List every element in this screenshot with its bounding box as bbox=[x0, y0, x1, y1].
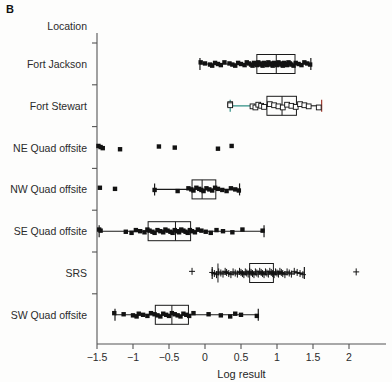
data-point bbox=[209, 231, 213, 235]
data-point bbox=[316, 105, 321, 110]
x-tick-label-7: 2 bbox=[346, 351, 352, 363]
data-point bbox=[124, 230, 128, 234]
x-tick-label-3: 0 bbox=[202, 351, 208, 363]
boxplot-group-fort-stewart bbox=[228, 96, 322, 115]
boxplot-group-fort-jackson bbox=[198, 55, 312, 74]
figure-panel: B LocationFort JacksonFort StewartNE Qua… bbox=[0, 0, 392, 382]
data-point bbox=[198, 60, 202, 64]
data-point bbox=[175, 189, 179, 193]
boxplot-group-se-quad-offsite bbox=[97, 222, 265, 241]
data-point bbox=[230, 230, 234, 234]
data-point bbox=[118, 147, 122, 151]
y-tick-label-sw-quad-offsite: SW Quad offsite bbox=[11, 309, 87, 321]
data-point bbox=[229, 144, 233, 148]
data-point bbox=[216, 187, 220, 191]
data-point bbox=[216, 147, 220, 151]
x-tick-label-0: −1.5 bbox=[87, 351, 108, 363]
data-point bbox=[98, 228, 102, 232]
boxplot-group-ne-quad-offsite bbox=[96, 144, 234, 152]
data-point bbox=[214, 228, 218, 232]
data-point bbox=[229, 186, 233, 190]
data-point bbox=[239, 313, 243, 317]
x-tick-label-2: −0.5 bbox=[159, 351, 180, 363]
data-point bbox=[112, 311, 116, 315]
data-point bbox=[228, 103, 233, 108]
data-point bbox=[141, 313, 145, 317]
data-point bbox=[255, 314, 259, 318]
data-point bbox=[191, 311, 195, 315]
x-tick-label-4: 0.5 bbox=[234, 351, 249, 363]
boxplot-group-sw-quad-offsite bbox=[112, 305, 259, 324]
data-point bbox=[306, 104, 311, 109]
data-point bbox=[224, 189, 228, 193]
data-point bbox=[308, 62, 312, 66]
x-tick-label-1: −1 bbox=[127, 351, 139, 363]
data-point bbox=[173, 145, 177, 149]
y-tick-label-srs: SRS bbox=[65, 267, 87, 279]
data-point bbox=[237, 188, 241, 192]
x-tick-label-6: 1.5 bbox=[306, 351, 321, 363]
data-point bbox=[206, 312, 210, 316]
data-point bbox=[203, 61, 207, 65]
data-point bbox=[260, 228, 264, 232]
data-point bbox=[219, 313, 223, 317]
y-tick-label-ne-quad-offsite: NE Quad offsite bbox=[13, 142, 87, 154]
data-point bbox=[101, 146, 105, 150]
y-tick-label-fort-jackson: Fort Jackson bbox=[27, 58, 87, 70]
y-tick-label-se-quad-offsite: SE Quad offsite bbox=[14, 225, 88, 237]
data-point bbox=[220, 188, 224, 192]
data-point bbox=[137, 312, 141, 316]
data-point bbox=[199, 228, 203, 232]
data-point bbox=[221, 229, 225, 233]
boxplot-group-srs bbox=[189, 264, 359, 283]
data-point bbox=[98, 186, 102, 190]
y-axis-header: Location bbox=[47, 20, 87, 32]
data-point bbox=[129, 231, 133, 235]
data-point bbox=[204, 230, 208, 234]
data-point bbox=[138, 229, 142, 233]
data-point bbox=[233, 312, 237, 316]
data-point bbox=[134, 228, 138, 232]
boxplot-group-nw-quad-offsite bbox=[98, 180, 241, 199]
data-point bbox=[152, 188, 156, 192]
x-axis-title: Log result bbox=[217, 368, 265, 380]
data-point bbox=[222, 60, 226, 64]
boxplot-chart: LocationFort JacksonFort StewartNE Quad … bbox=[0, 0, 392, 382]
y-tick-label-nw-quad-offsite: NW Quad offsite bbox=[10, 183, 87, 195]
data-point bbox=[113, 187, 117, 191]
x-tick-label-5: 1 bbox=[274, 351, 280, 363]
data-point bbox=[228, 314, 232, 318]
data-point bbox=[157, 144, 161, 148]
data-point bbox=[187, 314, 191, 318]
data-point bbox=[121, 312, 125, 316]
data-point bbox=[240, 227, 244, 231]
y-tick-label-fort-stewart: Fort Stewart bbox=[30, 100, 87, 112]
data-point bbox=[262, 105, 267, 110]
